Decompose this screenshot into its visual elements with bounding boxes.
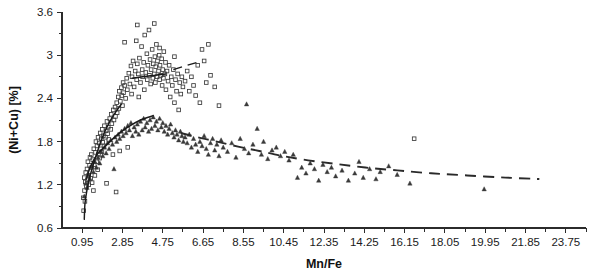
x-tick-label: 8.55 [232,236,254,248]
x-tick-label: 4.75 [152,236,174,248]
y-tick-label: 0.6 [37,222,53,234]
y-tick-label: 1.8 [37,136,53,148]
scatter-plot-svg: 0.61.21.82.433.6 0.952.854.756.658.5510.… [0,0,608,276]
y-tick-label: 1.2 [37,179,53,191]
x-tick-label: 6.65 [192,236,214,248]
x-tick-label: 14.25 [350,236,379,248]
x-tick-label: 19.95 [471,236,500,248]
x-axis-title: Mn/Fe [306,257,342,271]
x-tick-label: 10.45 [269,236,298,248]
x-tick-label: 21.85 [511,236,540,248]
x-tick-label: 0.95 [71,236,93,248]
x-tick-label: 12.35 [310,236,339,248]
x-tick-label: 23.75 [551,236,580,248]
x-tick-label: 18.05 [431,236,460,248]
x-tick-label: 2.85 [111,236,133,248]
y-tick-label: 3.6 [37,6,53,18]
y-tick-label: 3 [47,49,53,61]
chart-figure: 0.61.21.82.433.6 0.952.854.756.658.5510.… [0,0,608,276]
x-tick-label: 16.15 [390,236,419,248]
y-axis-title: (Ni+Cu) [%] [7,86,21,154]
plot-background [0,0,608,276]
y-tick-label: 2.4 [37,92,54,104]
